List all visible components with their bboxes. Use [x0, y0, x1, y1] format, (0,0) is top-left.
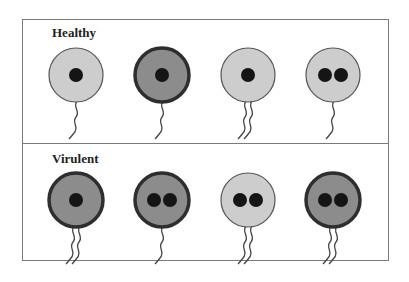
cell-body	[135, 173, 189, 227]
nucleus	[241, 68, 255, 82]
cell-virulent-1	[49, 173, 103, 264]
nucleus	[318, 193, 332, 207]
nucleus	[163, 193, 177, 207]
flagellum	[238, 101, 247, 139]
cell-body	[221, 173, 275, 227]
cell-virulent-3	[221, 173, 275, 264]
nucleus	[147, 193, 161, 207]
cell-healthy-2	[135, 48, 189, 139]
cell-healthy-4	[306, 48, 360, 139]
cell-body	[306, 173, 360, 227]
flagellum	[66, 226, 75, 264]
nucleus	[155, 68, 169, 82]
flagellum	[326, 101, 335, 139]
cell-virulent-4	[306, 173, 360, 264]
flagellum	[238, 226, 247, 264]
nucleus	[233, 193, 247, 207]
cell-body	[306, 48, 360, 102]
flagellum	[155, 226, 164, 264]
nucleus	[249, 193, 263, 207]
cell-virulent-2	[135, 173, 189, 264]
cell-healthy-3	[221, 48, 275, 139]
cells-layer	[0, 0, 409, 282]
nucleus	[69, 68, 83, 82]
flagellum	[155, 101, 164, 139]
nucleus	[69, 193, 83, 207]
nucleus	[318, 68, 332, 82]
nucleus	[334, 193, 348, 207]
cell-healthy-1	[49, 48, 103, 139]
nucleus	[334, 68, 348, 82]
flagellum	[323, 226, 332, 264]
flagellum	[69, 101, 78, 139]
